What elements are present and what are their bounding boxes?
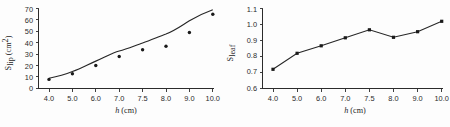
right-chart-svg: Sleaf 1.1 1.0 0.9 0.8 0.7 0.6: [225, 0, 450, 127]
left-y-axis-title: Slip (cm2): [1, 35, 15, 70]
right-x-unit: (cm): [350, 106, 366, 115]
right-point-8: [440, 20, 443, 23]
left-point-3: [94, 64, 97, 67]
right-xtick-7: 7.0: [340, 94, 350, 103]
right-ytick-10: 1.0: [247, 20, 257, 29]
left-point-8: [211, 13, 214, 16]
left-ytick-60: 60: [25, 16, 33, 25]
left-ytick-0: 0: [29, 84, 33, 93]
right-xtick-75: 7.5: [364, 94, 374, 103]
left-chart-svg: Slip (cm2) 70 60 50 40 30 20 10 0: [0, 0, 225, 127]
left-point-4: [118, 55, 121, 58]
left-ytick-10: 10: [25, 73, 33, 82]
left-xtick-8: 8.0: [161, 94, 171, 103]
left-xtick-5: 5.0: [67, 94, 77, 103]
left-point-6: [164, 45, 167, 48]
left-y-subscript: lip: [6, 57, 15, 66]
left-fit-curve: [49, 10, 213, 78]
right-xtick-10: 10.0: [435, 94, 449, 103]
svg-text:Slip (cm2): Slip (cm2): [1, 35, 15, 70]
chart-panel-right: Sleaf 1.1 1.0 0.9 0.8 0.7 0.6: [225, 0, 450, 127]
right-point-2: [296, 52, 299, 55]
right-xtick-9: 9.0: [412, 94, 422, 103]
right-ytick-09: 0.9: [247, 36, 257, 45]
right-point-7: [416, 30, 419, 33]
left-ytick-50: 50: [25, 27, 33, 36]
left-point-7: [188, 31, 191, 34]
left-xtick-75: 7.5: [137, 94, 147, 103]
left-xtick-10: 10.0: [206, 94, 220, 103]
right-y-axis-title: Sleaf: [226, 44, 237, 61]
right-data-line: [273, 21, 442, 69]
right-xtick-5: 5.0: [292, 94, 302, 103]
left-xtick-4: 4.0: [44, 94, 54, 103]
right-xtick-4: 4.0: [268, 94, 278, 103]
svg-text:Sleaf: Sleaf: [226, 44, 237, 61]
right-ytick-11: 1.1: [247, 5, 257, 14]
right-point-3: [320, 44, 323, 47]
left-ytick-20: 20: [25, 62, 33, 71]
right-xtick-6: 6.0: [316, 94, 326, 103]
right-data-markers: [271, 20, 443, 71]
right-ytick-06: 0.6: [247, 84, 257, 93]
left-y-unit: (cm: [4, 42, 13, 55]
right-y-subscript: leaf: [228, 44, 237, 57]
right-point-5: [368, 28, 371, 31]
left-point-5: [141, 48, 144, 51]
right-point-4: [344, 36, 347, 39]
left-xtick-7: 7.0: [114, 94, 124, 103]
left-ytick-70: 70: [25, 5, 33, 14]
right-xtick-8: 8.0: [388, 94, 398, 103]
left-x-axis-title: h (cm): [115, 106, 137, 115]
right-x-axis-title: h (cm): [344, 106, 366, 115]
left-xtick-6: 6.0: [91, 94, 101, 103]
right-point-6: [392, 36, 395, 39]
left-ytick-40: 40: [25, 39, 33, 48]
two-panel-figure: Slip (cm2) 70 60 50 40 30 20 10 0: [0, 0, 450, 127]
right-ytick-08: 0.8: [247, 51, 257, 60]
left-ytick-30: 30: [25, 50, 33, 59]
left-point-2: [71, 72, 74, 75]
chart-panel-left: Slip (cm2) 70 60 50 40 30 20 10 0: [0, 0, 225, 127]
right-ytick-07: 0.7: [247, 67, 257, 76]
left-point-1: [47, 78, 50, 81]
left-x-unit: (cm): [121, 106, 137, 115]
right-point-1: [271, 68, 274, 71]
left-xtick-9: 9.0: [184, 94, 194, 103]
